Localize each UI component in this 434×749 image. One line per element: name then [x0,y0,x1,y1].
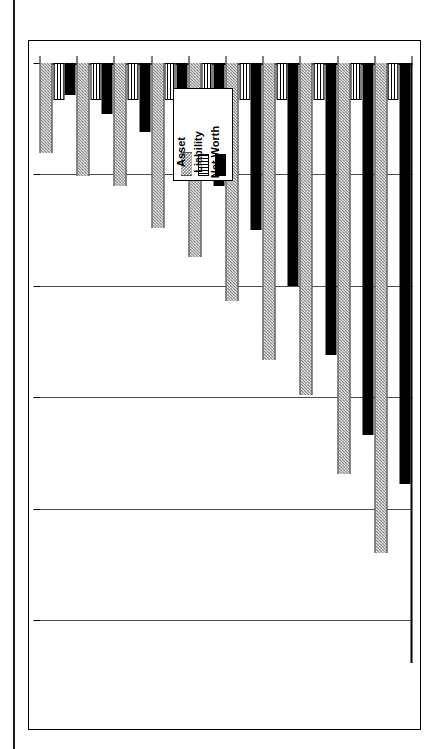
value-axis-tick-label: 1500 [29,390,33,405]
value-axis-tick [33,397,40,398]
chart-frame: 0500100015002000250096959493929190898887… [28,40,421,730]
category-axis-tick [337,56,338,63]
category-axis-tick [188,56,189,63]
bar-net-worth-92 [250,63,261,230]
gridline [40,509,412,510]
category-axis-tick [374,56,375,63]
bar-asset-89 [113,63,126,186]
bar-liability-87 [53,63,64,100]
category-label-96: 96 [377,41,411,42]
category-axis-tick [225,56,226,63]
category-axis-tick [411,56,412,63]
bar-asset-90 [151,63,164,228]
bar-net-worth-95 [362,63,373,435]
bar-asset-96 [374,63,387,553]
value-axis-tick-label: 0 [29,56,33,71]
chart-legend: AssetLiabilityNet Worth [173,88,233,181]
category-axis-tick [113,56,114,63]
category-axis-tick [151,56,152,63]
bar-liability-89 [127,63,138,100]
value-axis-tick-label: 2500 [29,613,33,628]
category-axis-tick [262,56,263,63]
category-label-92: 92 [228,41,262,42]
category-label-88: 88 [79,41,113,42]
value-axis-tick-label: 500 [29,167,33,182]
bar-asset-94 [299,63,312,395]
legend-label: Liability [192,131,204,173]
bar-asset-87 [39,63,52,153]
bar-asset-95 [337,63,350,474]
bar-liability-94 [313,63,324,100]
category-axis-tick [299,56,300,63]
legend-label: Asset [175,137,187,167]
category-axis-tick [76,56,77,63]
gridline [40,620,412,621]
bar-liability-88 [90,63,101,100]
legend-label: Net Worth [209,126,221,178]
bar-net-worth-89 [139,63,150,132]
category-label-95: 95 [340,41,374,42]
bar-net-worth-93 [287,63,298,286]
value-axis-tick-label: 1000 [29,278,33,293]
legend-entry-net-worth: Net Worth [214,93,228,178]
gridline [40,397,412,398]
bar-asset-88 [76,63,89,176]
bar-liability-92 [239,63,250,100]
category-label-89: 89 [117,41,151,42]
bar-net-worth-96 [399,63,410,484]
page-edge-rule [13,0,15,749]
value-axis-tick [33,620,40,621]
category-label-94: 94 [303,41,337,42]
category-axis-tick [39,56,40,63]
category-label-93: 93 [265,41,299,42]
category-label-90: 90 [154,41,188,42]
value-axis-tick [33,174,40,175]
value-axis-tick [33,286,40,287]
bar-liability-95 [350,63,361,100]
bar-liability-93 [276,63,287,100]
bar-net-worth-88 [101,63,112,114]
bar-liability-96 [387,63,398,100]
bar-net-worth-87 [64,63,75,95]
category-label-91: 91 [191,41,225,42]
value-axis-tick-label: 2000 [29,501,33,516]
bar-asset-93 [262,63,275,360]
category-label-87: 87 [42,41,76,42]
bar-net-worth-94 [325,63,336,355]
value-axis-tick [33,509,40,510]
